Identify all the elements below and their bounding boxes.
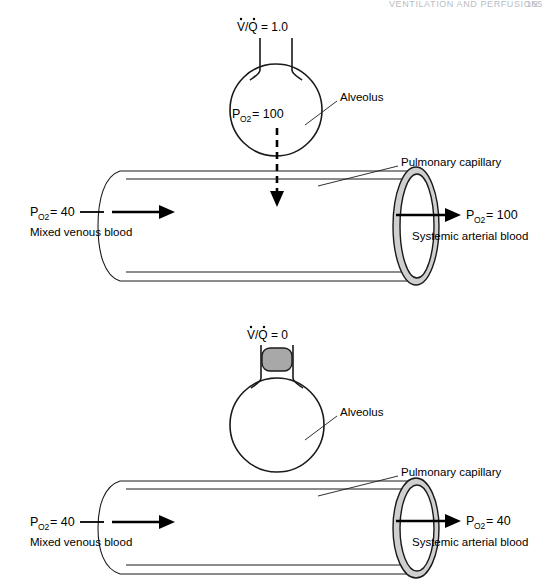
capillary-leader-normal [318, 166, 398, 186]
q-dot-normal [253, 18, 255, 20]
alveolus-normal [230, 38, 322, 156]
alveolus-callout-shunt: Alveolus [305, 406, 384, 440]
outflow-po2-sub-2-shunt: 2 [481, 521, 486, 531]
alveolus-shunt [230, 345, 324, 472]
inflow-po2-sub-2-shunt: 2 [45, 522, 50, 532]
outflow-po2-value-shunt: = 40 [486, 514, 511, 528]
capillary-mouth-ring-inner-shunt [400, 485, 434, 571]
vq-ratio-text-shunt: V/Q = 0 [247, 328, 288, 342]
outflow-po2-value-normal: = 100 [486, 208, 518, 222]
ghost-mark-right [345, 50, 354, 60]
panel-shunt: V/Q = 0 Alveolus [30, 326, 528, 578]
inflow-po2-sub-2-normal: 2 [45, 212, 50, 222]
vq-ratio-label-shunt: V/Q = 0 [247, 326, 288, 342]
outflow-po2-sub-2-normal: 2 [481, 215, 486, 225]
alveolus-leader-shunt [305, 416, 337, 440]
vq-ratio-text-normal: V/Q = 1.0 [237, 20, 288, 34]
airway-neck-right-normal [292, 38, 302, 80]
inflow-blood-label-shunt: Mixed venous blood [30, 536, 132, 548]
capillary-leader-shunt [318, 476, 398, 496]
v-dot-normal [240, 18, 242, 20]
q-dot-shunt [263, 326, 265, 328]
capillary-left-cap-shunt [98, 481, 120, 574]
inflow-group-normal: P O 2 = 40 Mixed venous blood [30, 205, 175, 238]
v-dot-shunt [250, 326, 252, 328]
panel-normal: V/Q = 1.0 Alveolus P O [30, 18, 528, 285]
capillary-tube-shunt [98, 478, 439, 578]
capillary-mouth-ring-inner-normal [400, 174, 434, 278]
diffusion-arrow-head-normal [270, 191, 284, 207]
inflow-po2-value-shunt: = 40 [50, 515, 75, 529]
page-running-header: VENTILATION AND PERFUSION 165 [389, 0, 543, 9]
inflow-po2-value-normal: = 40 [50, 205, 75, 219]
alveolus-label-normal: Alveolus [340, 91, 384, 103]
header-page-number: 165 [526, 0, 543, 9]
capillary-label-shunt: Pulmonary capillary [401, 466, 502, 478]
alveolus-label-shunt: Alveolus [340, 406, 384, 418]
figure-root: VENTILATION AND PERFUSION 165 V/Q = 1.0 [0, 0, 553, 581]
outflow-arrow-head-normal [445, 208, 461, 222]
vq-ratio-label-normal: V/Q = 1.0 [237, 18, 288, 34]
inflow-arrow-head-normal [159, 205, 175, 219]
inflow-blood-label-normal: Mixed venous blood [30, 226, 132, 238]
inflow-group-shunt: P O 2 = 40 Mixed venous blood [30, 515, 175, 548]
scan-ghost-marks [182, 50, 354, 60]
capillary-label-normal: Pulmonary capillary [401, 156, 502, 168]
alveolar-po2-value-normal: = 100 [252, 107, 284, 121]
alveolar-po2-normal: P O 2 = 100 [232, 107, 284, 124]
airway-neck-left-normal [250, 38, 260, 80]
header-running-title: VENTILATION AND PERFUSION [389, 0, 538, 9]
inflow-arrow-head-shunt [159, 515, 175, 529]
alveolus-callout-normal: Alveolus [305, 91, 384, 125]
alveolus-sac-shunt [230, 378, 324, 472]
outflow-blood-label-normal: Systemic arterial blood [412, 230, 528, 242]
outflow-arrow-head-shunt [445, 514, 461, 528]
airway-obstruction-plug-shunt [262, 348, 292, 371]
diffusion-arrow-normal [270, 128, 284, 207]
ghost-mark-left [182, 50, 191, 60]
outflow-blood-label-shunt: Systemic arterial blood [412, 536, 528, 548]
capillary-tube-normal [98, 167, 439, 285]
alveolar-po2-sub-2-normal: 2 [247, 114, 252, 124]
